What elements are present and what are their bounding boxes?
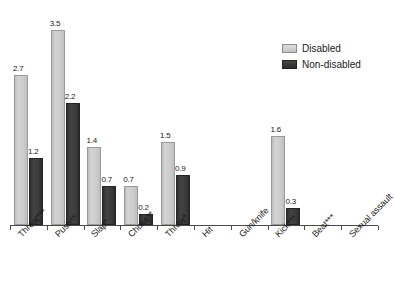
bar-value-label: 0.9 xyxy=(175,164,186,174)
bar-value-label: 1.6 xyxy=(270,125,281,135)
x-axis-tick xyxy=(231,226,232,230)
x-axis-tick xyxy=(194,226,195,230)
bar-group: 1.40.7 xyxy=(84,8,121,225)
bar-value-label: 2.7 xyxy=(13,64,24,74)
bar-disabled: 0.7 xyxy=(124,186,138,225)
bar-value-label: 2.2 xyxy=(65,92,76,102)
bar-group xyxy=(194,8,231,225)
bar-disabled: 1.4 xyxy=(87,147,101,225)
x-axis-tick xyxy=(268,226,269,230)
legend-label-non-disabled: Non-disabled xyxy=(302,59,361,70)
bar-value-label: 1.4 xyxy=(86,136,97,146)
x-axis-tick xyxy=(84,226,85,230)
x-axis-tick xyxy=(157,226,158,230)
x-axis-tick xyxy=(304,226,305,230)
bar-disabled: 3.5 xyxy=(51,30,65,225)
bar-non-disabled: 2.2 xyxy=(66,103,80,225)
bar-value-label: 1.5 xyxy=(160,131,171,141)
bar-group: 2.71.2 xyxy=(10,8,47,225)
bar-group: 0.70.2 xyxy=(120,8,157,225)
x-axis-tick xyxy=(47,226,48,230)
bar-value-label: 3.5 xyxy=(50,19,61,29)
bar-disabled: 2.7 xyxy=(14,75,28,225)
legend-item-non-disabled: Non-disabled xyxy=(282,57,382,71)
x-axis-label: Hit xyxy=(200,224,215,239)
x-axis-tick xyxy=(378,226,379,230)
bar-group: 1.50.9 xyxy=(157,8,194,225)
bar-value-label: 0.7 xyxy=(123,175,134,185)
bar-value-label: 0.3 xyxy=(285,197,296,207)
bar-value-label: 1.2 xyxy=(28,147,39,157)
x-axis-tick xyxy=(120,226,121,230)
bar-group xyxy=(231,8,268,225)
legend-swatch-disabled xyxy=(282,44,297,53)
legend-item-disabled: Disabled xyxy=(282,41,382,55)
chart-legend: Disabled Non-disabled xyxy=(282,41,382,73)
bar-group: 3.52.2 xyxy=(47,8,84,225)
legend-swatch-non-disabled xyxy=(282,60,297,69)
bar-value-label: 0.7 xyxy=(101,175,112,185)
bar-disabled: 1.5 xyxy=(161,142,175,225)
legend-label-disabled: Disabled xyxy=(302,43,341,54)
x-axis-tick xyxy=(10,226,11,230)
bar-disabled: 1.6 xyxy=(271,136,285,225)
x-axis-tick xyxy=(341,226,342,230)
